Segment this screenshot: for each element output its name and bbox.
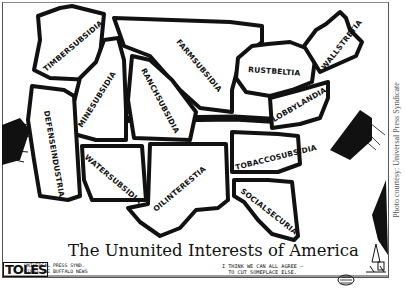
- cartoon-title: The Ununited Interests of America: [68, 241, 359, 260]
- small-figure-icon: [366, 244, 386, 272]
- syndication-line-2: ©1993 THE BUFFALO NEWS: [24, 269, 88, 275]
- speech-line-2: TO CUT SOMEPLACE ELSE.: [222, 269, 303, 275]
- syndication-notice: UNIVERSAL PRESS SYND. ©1993 THE BUFFALO …: [24, 263, 88, 275]
- photo-credit: Photo courtesy: Universal Press Syndicat…: [392, 82, 401, 218]
- speech-caption: I THINK WE CAN ALL AGREE — TO CUT SOMEPL…: [222, 263, 303, 275]
